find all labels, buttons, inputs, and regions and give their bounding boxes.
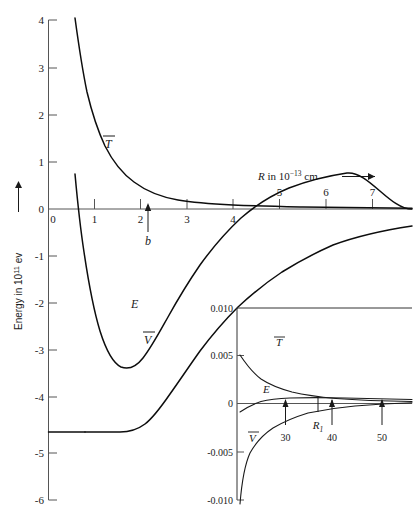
y-tick-label-4: 4 <box>39 14 45 26</box>
inset-y-tick-labels: 0.010 0.005 0 -0.005 -0.010 <box>207 303 233 506</box>
y-tick-label-neg4: -4 <box>35 391 45 403</box>
svg-text:Energy in 1011 ev: Energy in 1011 ev <box>12 253 25 330</box>
main-plot: 4 3 2 1 0 -1 -2 -3 -4 -5 -6 <box>12 14 413 506</box>
inset-x-ticks: 30 40 50 <box>281 399 388 443</box>
inset-label-v-bar: V <box>249 432 257 444</box>
x-axis-title-arrow-head <box>368 173 375 180</box>
curve-e <box>75 173 412 368</box>
curve-v-bar <box>85 226 412 432</box>
inset-y-label-0010: 0.010 <box>211 303 234 314</box>
svg-text:R in 10−13 cm: R in 10−13 cm <box>257 169 318 182</box>
y-axis-title: Energy in 1011 ev <box>12 181 25 330</box>
energy-vs-radius-figure: 4 3 2 1 0 -1 -2 -3 -4 -5 -6 <box>0 0 420 516</box>
inset-y-label-0: 0 <box>228 398 233 409</box>
inset-plot: 0.010 0.005 0 -0.005 -0.010 30 40 50 <box>207 303 412 506</box>
y-tick-label-neg1: -1 <box>35 250 44 262</box>
y-tick-label-neg5: -5 <box>35 447 45 459</box>
b-label: b <box>145 234 151 248</box>
figure-container: 4 3 2 1 0 -1 -2 -3 -4 -5 -6 <box>0 0 420 516</box>
r1-label: R1 <box>312 419 323 434</box>
x-tick-label-3: 3 <box>184 213 190 225</box>
inset-x-label-40: 40 <box>327 432 337 443</box>
y-axis-title-exponent: 11 <box>12 266 21 274</box>
x-tick-label-7: 7 <box>370 186 376 198</box>
x-tick-label-2: 2 <box>138 213 144 225</box>
r1-label-subscript: 1 <box>319 425 323 434</box>
x-tick-label-0: 0 <box>50 213 56 225</box>
x-tick-label-1: 1 <box>92 213 98 225</box>
label-e: E <box>130 297 139 311</box>
inset-x-label-30: 30 <box>281 432 291 443</box>
inset-label-e: E <box>262 383 270 395</box>
y-tick-label-3: 3 <box>39 62 45 74</box>
y-axis-tick-labels: 4 3 2 1 0 -1 -2 -3 -4 -5 -6 <box>35 14 45 506</box>
inset-y-label-neg0010: -0.010 <box>207 495 233 506</box>
b-arrow-head <box>145 203 151 211</box>
y-tick-label-neg3: -3 <box>35 344 45 356</box>
inset-label-t-bar: T <box>276 336 283 348</box>
y-axis-title-prefix: Energy in 10 <box>13 273 24 330</box>
x-axis-title-prefix: in 10 <box>267 170 290 182</box>
y-axis-title-arrow-head <box>15 181 22 188</box>
inset-curve-labels: T E V <box>248 336 285 444</box>
inset-y-label-neg0005: -0.005 <box>207 447 233 458</box>
inset-y-label-0005: 0.005 <box>211 350 234 361</box>
y-tick-label-1: 1 <box>39 156 45 168</box>
annotation-b: b <box>145 203 151 248</box>
y-tick-label-neg2: -2 <box>35 297 44 309</box>
y-tick-label-2: 2 <box>39 109 45 121</box>
x-tick-label-6: 6 <box>323 186 329 198</box>
curve-t-bar <box>75 18 412 208</box>
y-tick-label-0: 0 <box>39 203 45 215</box>
y-axis-ticks <box>49 20 58 500</box>
label-t-bar: T <box>105 137 113 151</box>
x-axis-title-exponent: −13 <box>290 169 302 178</box>
inset-curve-v-bar <box>240 403 412 504</box>
y-axis-title-suffix: ev <box>13 253 24 266</box>
y-tick-label-neg6: -6 <box>35 494 45 506</box>
x-axis-title-suffix: cm <box>302 170 319 182</box>
x-axis-tick-labels: 0 1 2 3 4 5 6 7 <box>50 186 376 225</box>
inset-x-label-50: 50 <box>377 432 387 443</box>
